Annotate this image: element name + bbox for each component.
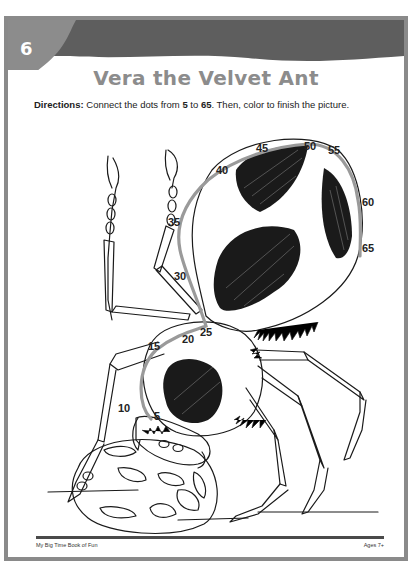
worksheet-page: 6 Vera the Velvet Ant Directions: Connec… (4, 16, 408, 561)
footer-divider (36, 536, 384, 539)
footer-age-range: Ages 7+ (364, 542, 384, 548)
footer-book-title: My Big Time Book of Fun (36, 542, 97, 548)
dot-45: 45 (256, 142, 268, 154)
dot-55: 55 (328, 144, 340, 156)
velvet-ant-illustration: 5 10 15 20 25 30 35 40 45 50 55 60 65 (8, 20, 404, 557)
worksheet-content: 6 Vera the Velvet Ant Directions: Connec… (8, 20, 404, 557)
dot-35: 35 (168, 216, 180, 228)
dot-60: 60 (362, 196, 374, 208)
dot-65: 65 (362, 242, 374, 254)
dot-15: 15 (148, 340, 160, 352)
dot-25: 25 (200, 326, 212, 338)
dot-50: 50 (304, 140, 316, 152)
dot-30: 30 (174, 270, 186, 282)
dot-40: 40 (216, 164, 228, 176)
dot-20: 20 (182, 333, 194, 345)
dot-5: 5 (154, 410, 160, 422)
dot-10: 10 (118, 402, 130, 414)
